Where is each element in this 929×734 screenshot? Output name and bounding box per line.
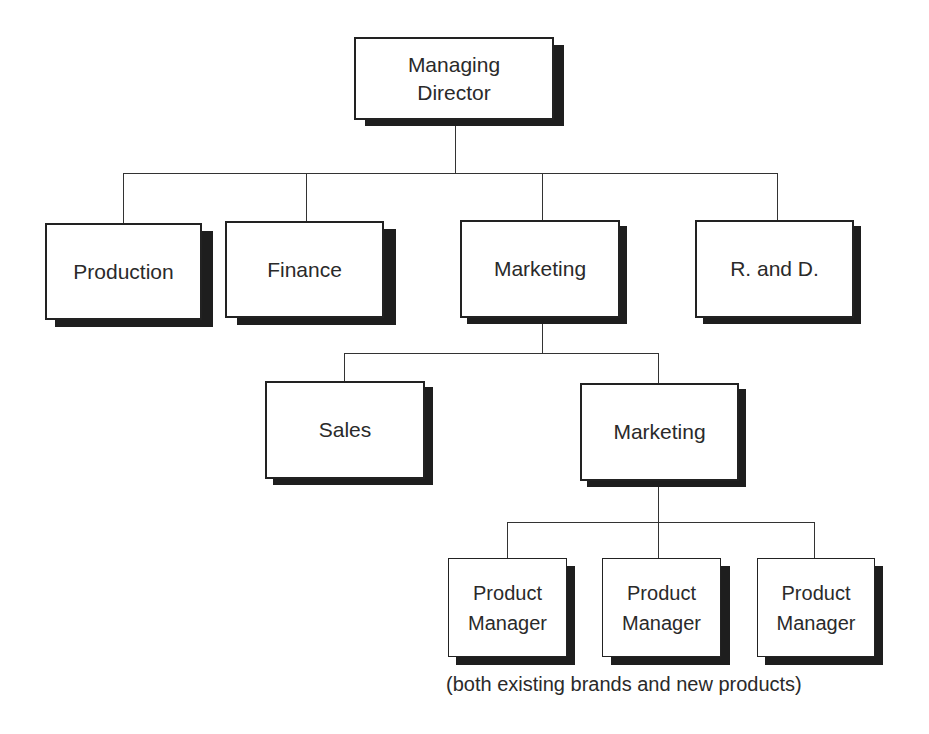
node-marketing: Marketing	[460, 220, 620, 318]
connector-sales	[344, 353, 345, 381]
node-label: Finance	[267, 256, 342, 284]
connector-marketing-sub	[658, 353, 659, 383]
node-label: Marketing	[613, 418, 705, 446]
node-finance: Finance	[225, 221, 384, 318]
connector-level1-bar	[123, 173, 778, 174]
caption: (both existing brands and new products)	[446, 673, 802, 696]
node-product-manager-1: Product Manager	[448, 558, 567, 657]
node-rnd: R. and D.	[695, 220, 854, 318]
node-sales: Sales	[265, 381, 425, 479]
connector-pm3	[814, 522, 815, 558]
node-production: Production	[45, 223, 202, 320]
connector-rnd	[777, 173, 778, 220]
node-label: Product Manager	[777, 578, 856, 638]
node-label: Product Manager	[622, 578, 701, 638]
connector-level3-bar	[507, 522, 814, 523]
node-managing-director: Managing Director	[354, 37, 554, 120]
node-marketing-sub: Marketing	[580, 383, 739, 481]
node-label: Production	[73, 258, 173, 286]
connector-md-down	[455, 119, 456, 173]
connector-finance	[306, 173, 307, 221]
node-label: R. and D.	[730, 255, 819, 283]
node-label: Sales	[319, 416, 372, 444]
connector-level2-bar	[344, 353, 659, 354]
connector-marketing-sub-down	[658, 480, 659, 558]
connector-pm1	[507, 522, 508, 558]
node-product-manager-2: Product Manager	[602, 558, 721, 657]
node-label: Marketing	[494, 255, 586, 283]
node-product-manager-3: Product Manager	[757, 558, 875, 657]
node-label: Managing Director	[408, 51, 500, 107]
node-label: Product Manager	[468, 578, 547, 638]
connector-marketing	[542, 173, 543, 220]
connector-production	[123, 173, 124, 223]
